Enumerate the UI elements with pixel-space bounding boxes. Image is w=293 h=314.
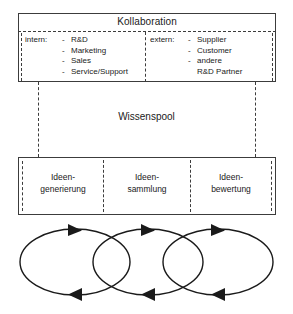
collaboration-title-label: Kollaboration <box>117 17 177 27</box>
phase-label-line2: bewertung <box>211 183 251 195</box>
collaboration-inner-left-edge <box>21 33 22 81</box>
collaboration-inner-right-edge <box>272 33 273 81</box>
cycle-arrow-top-3 <box>211 224 225 236</box>
list-item: R&D <box>62 35 128 46</box>
cycle-arrow-top-1 <box>68 224 82 236</box>
external-items-list: Supplier Customer andere R&D Partner <box>188 35 242 77</box>
phases-inner-left-edge <box>22 161 23 211</box>
cycle-arrow-top-2 <box>141 224 155 236</box>
external-label: extern: <box>150 35 174 46</box>
phases-inner-right-edge <box>271 161 272 211</box>
phase-idea-collection: Ideen- sammlung <box>104 171 190 203</box>
phase-idea-evaluation: Ideen- bewertung <box>191 171 271 203</box>
phase-label-line1: Ideen- <box>219 171 243 183</box>
iteration-cycles-group <box>0 215 293 314</box>
list-item: Customer <box>188 46 242 57</box>
internal-label: intern: <box>25 35 47 46</box>
innovation-process-diagram: Kollaboration intern: R&D Marketing Sale… <box>0 0 293 314</box>
list-item: Supplier <box>188 35 242 46</box>
phase-label-line1: Ideen- <box>51 171 75 183</box>
list-item: andere <box>188 56 242 67</box>
cycle-arrow-bottom-3 <box>211 288 225 301</box>
knowledge-pool-label: Wissenspool <box>0 112 293 122</box>
cycle-arrow-bottom-2 <box>141 288 155 301</box>
cycle-ellipse-2 <box>93 229 203 295</box>
list-item: Marketing <box>62 46 128 57</box>
phase-idea-generation: Ideen- generierung <box>24 171 102 203</box>
internal-items-list: R&D Marketing Sales Service/Support <box>62 35 128 77</box>
phase-label-line1: Ideen- <box>135 171 159 183</box>
list-item: Sales <box>62 56 128 67</box>
cycle-arrow-bottom-1 <box>68 288 82 301</box>
cycle-ellipse-3 <box>163 229 273 295</box>
phase-label-line2: sammlung <box>127 183 166 195</box>
cycle-ellipse-1 <box>20 229 130 295</box>
phase-label-line2: generierung <box>40 183 85 195</box>
list-item-continuation: R&D Partner <box>188 67 242 78</box>
list-item: Service/Support <box>62 67 128 78</box>
collaboration-title: Kollaboration <box>18 13 276 32</box>
collaboration-column-divider <box>145 32 146 82</box>
